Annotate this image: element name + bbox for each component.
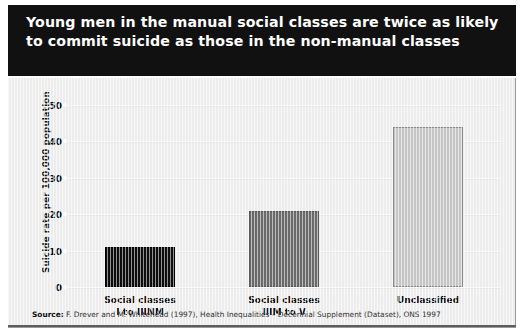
y-tick-marker xyxy=(63,139,67,143)
y-tick-label: 10 xyxy=(49,245,62,256)
title-banner: Young men in the manual social classes a… xyxy=(8,5,516,76)
chart-figure: Young men in the manual social classes a… xyxy=(0,0,524,334)
y-tick-label: 40 xyxy=(49,136,62,147)
gridline xyxy=(68,105,500,106)
y-tick-marker xyxy=(63,103,67,107)
y-tick-marker xyxy=(63,176,67,180)
source-note: Source: F. Drever and M. Whitehead (1997… xyxy=(32,310,441,319)
y-tick-label: 50 xyxy=(49,100,62,111)
y-tick-marker xyxy=(63,212,67,216)
y-tick-marker xyxy=(63,285,67,289)
bar xyxy=(249,211,319,287)
bottom-rule xyxy=(8,325,516,327)
y-tick-label: 30 xyxy=(49,172,62,183)
bar xyxy=(393,127,463,287)
gridline xyxy=(68,287,500,288)
source-keyword: Source: xyxy=(32,310,64,319)
y-tick-label: 0 xyxy=(55,282,62,293)
chart-panel: Suicide rate per 100,000 population 0102… xyxy=(8,78,516,328)
plot-area: 01020304050Social classes I to IIINMSoci… xyxy=(68,105,500,287)
x-axis-category-label: Unclassified xyxy=(356,294,500,306)
bar xyxy=(105,247,175,287)
y-tick-label: 20 xyxy=(49,209,62,220)
y-tick-marker xyxy=(63,249,67,253)
source-text: F. Drever and M. Whitehead (1997), Healt… xyxy=(64,310,441,319)
page-title: Young men in the manual social classes a… xyxy=(26,13,504,50)
